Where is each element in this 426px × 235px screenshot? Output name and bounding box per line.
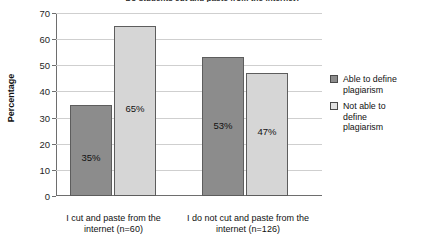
- ytick-label-30: 30: [39, 113, 50, 124]
- x-axis-category-2: I do not cut and paste from the internet…: [178, 213, 318, 235]
- ytick-label-20: 20: [39, 139, 50, 150]
- ytick-mark-50: [52, 65, 56, 66]
- legend-label-notable-line3: plagiarism: [343, 122, 386, 133]
- bar-group1-notable: 65%: [114, 26, 156, 196]
- ytick-label-70: 70: [39, 8, 50, 19]
- bar-group1-able: 35%: [70, 105, 112, 197]
- legend-item-able: Able to define plagiarism: [330, 74, 426, 95]
- ytick-label-40: 40: [39, 86, 50, 97]
- legend-label-able-line2: plagiarism: [343, 85, 397, 96]
- x-axis-category-2-line2: internet (n=126): [178, 224, 318, 235]
- bar-label-group1-able: 35%: [71, 152, 111, 163]
- ytick-mark-30: [52, 118, 56, 119]
- legend-label-notable-line2: define: [343, 112, 386, 123]
- ytick-label-60: 60: [39, 34, 50, 45]
- legend-item-notable: Not able to define plagiarism: [330, 101, 426, 133]
- gridline-60: [56, 39, 322, 40]
- legend-label-notable: Not able to define plagiarism: [343, 101, 386, 133]
- x-axis-category-2-line1: I do not cut and paste from the: [178, 213, 318, 224]
- y-axis-title: Percentage: [4, 0, 18, 196]
- bar-label-group1-notable: 65%: [115, 103, 155, 114]
- chart-legend: Able to define plagiarism Not able to de…: [330, 74, 426, 139]
- legend-swatch-icon-notable: [330, 102, 338, 110]
- ytick-mark-10: [52, 170, 56, 171]
- y-axis-line: [56, 13, 57, 196]
- gridline-70: [56, 13, 322, 14]
- legend-swatch-icon-able: [330, 75, 338, 83]
- x-axis-category-1-line2: internet (n=60): [51, 224, 176, 235]
- ytick-label-50: 50: [39, 60, 50, 71]
- plot-area: 70 60 50 40 30 20 10 0 35% 65% 53% 47% I…: [56, 13, 322, 196]
- legend-label-able-line1: Able to define: [343, 74, 397, 85]
- ytick-mark-60: [52, 39, 56, 40]
- bar-label-group2-able: 53%: [203, 120, 243, 131]
- y-axis-title-label: Percentage: [6, 74, 16, 123]
- bar-chart: Do students cut and paste from the inter…: [0, 0, 426, 235]
- x-axis-category-1: I cut and paste from the internet (n=60): [51, 213, 176, 235]
- bar-group2-notable: 47%: [246, 73, 288, 196]
- bar-group2-able: 53%: [202, 57, 244, 196]
- ytick-label-0: 0: [45, 191, 50, 202]
- legend-label-able: Able to define plagiarism: [343, 74, 397, 95]
- x-axis-category-1-line1: I cut and paste from the: [51, 213, 176, 224]
- ytick-mark-40: [52, 91, 56, 92]
- bar-label-group2-notable: 47%: [247, 126, 287, 137]
- chart-title: Do students cut and paste from the inter…: [0, 0, 426, 2]
- gridline-50: [56, 65, 322, 66]
- ytick-mark-70: [52, 13, 56, 14]
- ytick-mark-20: [52, 144, 56, 145]
- ytick-mark-0: [52, 196, 56, 197]
- legend-label-notable-line1: Not able to: [343, 101, 386, 112]
- ytick-label-10: 10: [39, 165, 50, 176]
